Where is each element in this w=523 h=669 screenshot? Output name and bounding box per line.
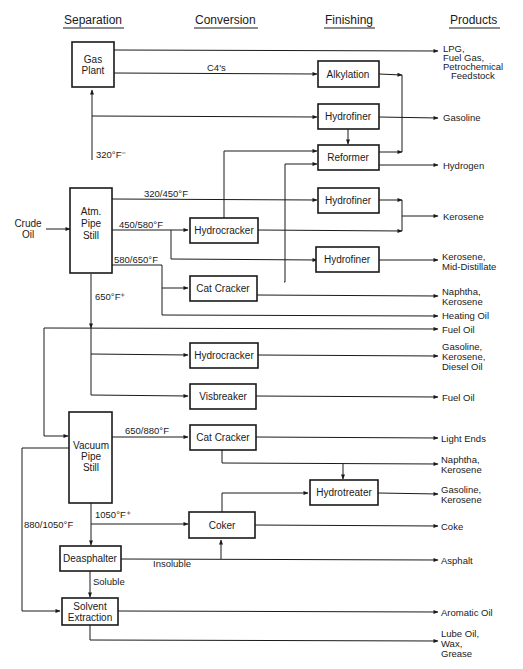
product-heating-oil: Heating Oil [442, 310, 489, 321]
label-650-plus: 650°F⁺ [95, 291, 125, 302]
product-coke: Coke [441, 521, 463, 532]
vacuum-label-1: Vacuum [73, 440, 109, 451]
unit-cat-cracker-2[interactable]: Cat Cracker [190, 425, 256, 450]
label-c4s: C4's [207, 62, 226, 73]
gas-plant-label-2: Plant [82, 65, 105, 76]
hydrocracker-2-label: Hydrocracker [194, 350, 254, 361]
header-separation: Separation [64, 13, 122, 27]
header-conversion: Conversion [195, 13, 256, 27]
label-650-880: 650/880°F [125, 425, 169, 436]
unit-hydrofiner-2[interactable]: Hydrofiner [318, 188, 379, 213]
product-gasoline: Gasoline [443, 112, 481, 123]
label-320-450: 320/450°F [144, 188, 188, 199]
unit-hydrocracker-1[interactable]: Hydrocracker [190, 218, 258, 243]
reformer-label: Reformer [327, 152, 369, 163]
header-products: Products [450, 13, 497, 27]
product-mid-distillate: Mid-Distillate [442, 261, 496, 272]
cat-cracker-1-label: Cat Cracker [196, 283, 250, 294]
unit-gas-plant[interactable]: Gas Plant [72, 42, 114, 87]
products-column: LPG, Fuel Gas, Petrochemical Feedstock G… [441, 43, 503, 659]
crude-oil-label-2: Oil [22, 229, 34, 240]
alkylation-label: Alkylation [327, 69, 370, 80]
hydrofiner-3-label: Hydrofiner [324, 254, 371, 265]
solvent-label-1: Solvent [73, 601, 107, 612]
atm-label-3: Still [83, 230, 99, 241]
product-kerosene-3: Kerosene [442, 296, 483, 307]
unit-alkylation[interactable]: Alkylation [318, 61, 379, 87]
product-hydrogen: Hydrogen [443, 160, 484, 171]
solvent-label-2: Extraction [68, 612, 112, 623]
product-kerosene-5: Kerosene [441, 464, 482, 475]
deasphalter-label: Deasphalter [63, 553, 118, 564]
vacuum-label-3: Still [83, 462, 99, 473]
header-finishing: Finishing [325, 13, 373, 27]
cat-cracker-2-label: Cat Cracker [196, 432, 250, 443]
hydrofiner-2-label: Hydrofiner [325, 195, 372, 206]
hydrocracker-1-label: Hydrocracker [194, 225, 254, 236]
vacuum-label-2: Pipe [81, 451, 101, 462]
unit-cat-cracker-1[interactable]: Cat Cracker [190, 276, 257, 301]
product-grease: Grease [441, 648, 472, 659]
unit-hydrofiner-3[interactable]: Hydrofiner [316, 247, 379, 272]
label-450-580: 450/580°F [119, 219, 163, 230]
product-fuel-oil: Fuel Oil [442, 324, 475, 335]
column-headers: Separation Conversion Finishing Products [63, 13, 500, 28]
unit-atm-pipe-still[interactable]: Atm. Pipe Still [70, 188, 112, 273]
product-fuel-oil-2: Fuel Oil [442, 392, 475, 403]
label-880-1050: 880/1050°F [24, 519, 73, 530]
label-580-650: 580/650°F [114, 254, 158, 265]
label-soluble: Soluble [93, 576, 125, 587]
product-diesel-oil: Diesel Oil [442, 361, 483, 372]
product-light-ends: Light Ends [441, 433, 486, 444]
hydrofiner-1-label: Hydrofiner [325, 111, 372, 122]
unit-solvent-extraction[interactable]: Solvent Extraction [62, 598, 118, 625]
gas-plant-label-1: Gas [84, 54, 102, 65]
hydrotreater-label: Hydrotreater [316, 487, 372, 498]
product-aromatic-oil: Aromatic Oil [441, 607, 493, 618]
unit-vacuum-pipe-still[interactable]: Vacuum Pipe Still [69, 412, 112, 503]
visbreaker-label: Visbreaker [199, 391, 247, 402]
stream-labels: C4's 320°F⁻ 320/450°F 450/580°F 580/650°… [24, 62, 226, 587]
unit-hydrocracker-2[interactable]: Hydrocracker [190, 343, 258, 368]
unit-coker[interactable]: Coker [189, 512, 255, 538]
unit-deasphalter[interactable]: Deasphalter [60, 546, 121, 571]
coker-label: Coker [209, 520, 236, 531]
label-320-minus: 320°F⁻ [96, 149, 126, 160]
crude-oil-label-1: Crude [14, 218, 42, 229]
refinery-flow-diagram: Separation Conversion Finishing Products [0, 0, 523, 669]
atm-label-1: Atm. [81, 206, 102, 217]
product-feedstock: Feedstock [451, 70, 495, 81]
product-kerosene-6: Kerosene [441, 494, 482, 505]
product-kerosene: Kerosene [443, 211, 484, 222]
unit-visbreaker[interactable]: Visbreaker [190, 384, 256, 409]
unit-reformer[interactable]: Reformer [318, 145, 379, 170]
atm-label-2: Pipe [81, 218, 101, 229]
unit-hydrofiner-1[interactable]: Hydrofiner [318, 104, 379, 129]
label-insoluble: Insoluble [153, 558, 191, 569]
unit-hydrotreater[interactable]: Hydrotreater [310, 480, 378, 505]
product-asphalt: Asphalt [441, 555, 473, 566]
label-1050-plus: 1050°F⁺ [95, 509, 131, 520]
